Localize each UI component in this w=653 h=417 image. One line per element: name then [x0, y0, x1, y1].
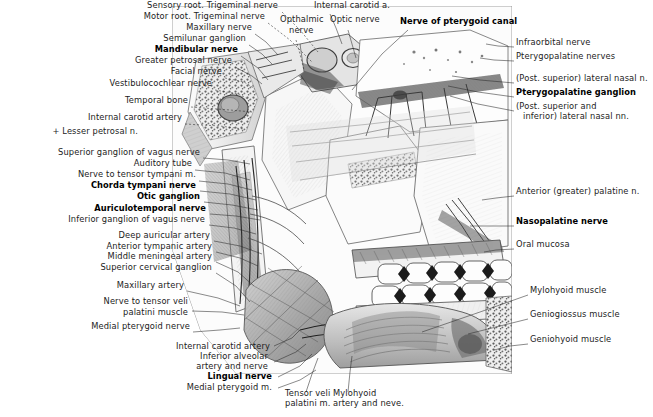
anatomy-label: nerve [289, 25, 313, 36]
anatomy-label: Middle meningeal artery [0, 251, 212, 262]
anatomy-label: artery and neve. [333, 398, 404, 409]
anatomy-label: Internal carotid a. [314, 0, 390, 11]
anatomy-label: Auriculotemporal nerve [0, 203, 206, 214]
anatomy-label: Inferior ganglion of vagus nerve [0, 214, 205, 225]
anatomy-label: Motor root. Trigeminal nerve [0, 11, 265, 22]
anatomy-label: Temporal bone [0, 95, 188, 106]
anatomy-label: Maxillary artery [0, 280, 184, 291]
anatomy-label: (Post. superior) lateral nasal n. [516, 73, 648, 84]
anatomy-label: Mandibular nerve [0, 44, 238, 55]
anatomy-label: Internal carotid artery [0, 112, 182, 123]
anatomy-label: Facial nerve [0, 66, 222, 77]
anatomy-figure: Sensory root. Trigeminal nerveMotor root… [0, 0, 653, 417]
anatomy-label: Medial pterygoid m. [0, 382, 272, 393]
anatomy-label: inferior) lateral nasal nn. [523, 111, 629, 122]
anatomy-label: Vestibulocochlear nerve [0, 78, 212, 89]
anatomy-label: Oral mucosa [516, 239, 570, 250]
anatomy-label: Nerve of pterygoid canal [400, 16, 517, 27]
anatomy-label: Sensory root. Trigeminal nerve [0, 0, 278, 11]
anatomy-label: Pterygopalatine ganglion [516, 87, 636, 98]
anatomy-label: palatini muscle [0, 307, 188, 318]
anatomy-label: Pterygopalatine nerves [516, 51, 615, 62]
anatomy-label: Greater petrosal nerve [0, 55, 232, 66]
anatomy-label: Deep auricular artery [0, 230, 210, 241]
anatomy-label: Chorda tympani nerve [0, 180, 196, 191]
anatomy-label: Nerve to tensor tympani m. [0, 169, 196, 180]
anatomy-label: Infraorbital nerve [516, 37, 590, 48]
anatomy-label: Superior ganglion of vagus nerve [0, 147, 200, 158]
anatomy-label: + Lesser petrosal n. [0, 126, 138, 137]
anatomy-label: Geniogiossus muscle [530, 309, 620, 320]
anatomy-label: palatini m. [285, 398, 331, 409]
anatomy-label: Geniohyoid muscle [530, 334, 611, 345]
anatomy-label: Nasopalatine nerve [516, 216, 608, 227]
anatomy-label: Auditory tube [0, 158, 192, 169]
anatomy-label: Opthalmic [280, 14, 324, 25]
anatomy-label: Lingual nerve [0, 371, 272, 382]
anatomy-label: Superior cervical ganglion [0, 262, 212, 273]
anatomy-label: Nerve to tensor veli [0, 296, 188, 307]
anatomy-label: Anterior (greater) palatine n. [516, 186, 640, 197]
anatomy-label: Otic ganglion [0, 191, 200, 202]
anatomy-label: Maxillary nerve [0, 22, 252, 33]
anatomy-label: Mylohyoid muscle [530, 285, 606, 296]
anatomy-label: Optic nerve [330, 14, 380, 25]
anatomy-label: Semilunar ganglion [0, 33, 246, 44]
anatomy-label: Medial pterygoid nerve [0, 321, 190, 332]
